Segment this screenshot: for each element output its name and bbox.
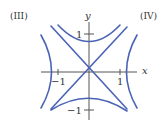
x-axis-label: x (142, 66, 148, 76)
y-axis-label: y (85, 11, 91, 21)
hyperbola-plot (0, 0, 166, 120)
x-tick-neg1: −1 (51, 77, 66, 87)
x-tick-1: 1 (117, 77, 123, 87)
y-tick-neg1: −1 (67, 106, 82, 116)
y-tick-1: 1 (76, 30, 82, 40)
